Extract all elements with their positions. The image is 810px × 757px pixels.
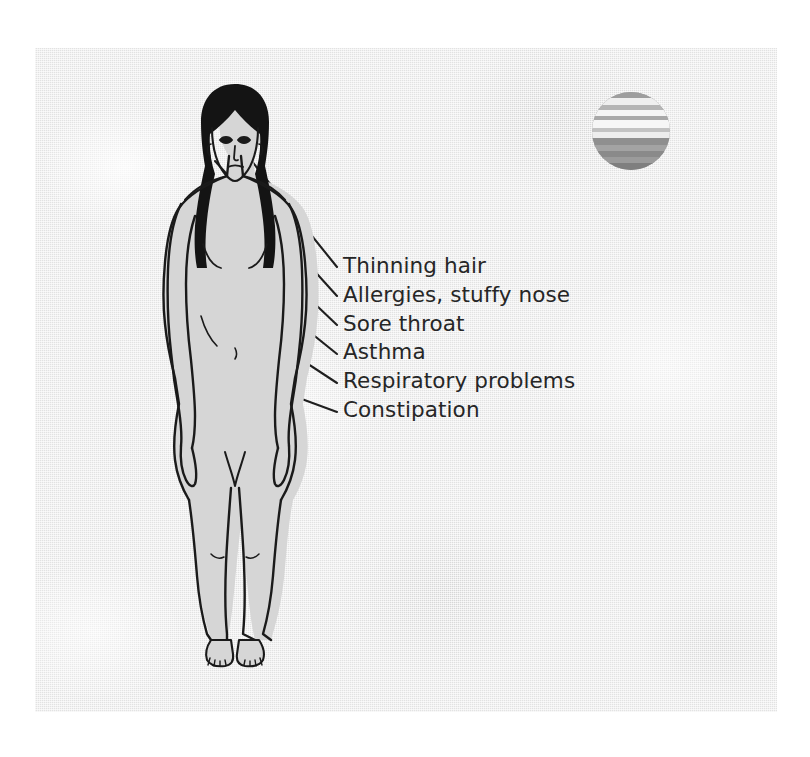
- symptom-label-thinning-hair: Thinning hair: [343, 252, 703, 281]
- body-silhouette-fill: [164, 88, 319, 640]
- symptom-label-list: Thinning hair Allergies, stuffy nose Sor…: [343, 252, 703, 425]
- illustration-panel: Thinning hair Allergies, stuffy nose Sor…: [35, 48, 777, 712]
- symptom-label-constipation: Constipation: [343, 396, 703, 425]
- planet-sphere: [592, 92, 670, 170]
- figure-root: Thinning hair Allergies, stuffy nose Sor…: [0, 0, 810, 757]
- symptom-label-asthma: Asthma: [343, 338, 703, 367]
- right-eye: [238, 137, 250, 143]
- female-body-figure: [164, 84, 319, 666]
- sphere-band: [592, 163, 670, 170]
- left-eye: [220, 137, 232, 143]
- symptom-label-sore-throat: Sore throat: [343, 310, 703, 339]
- symptom-label-respiratory-problems: Respiratory problems: [343, 367, 703, 396]
- symptom-label-allergies-stuffy-nose: Allergies, stuffy nose: [343, 281, 703, 310]
